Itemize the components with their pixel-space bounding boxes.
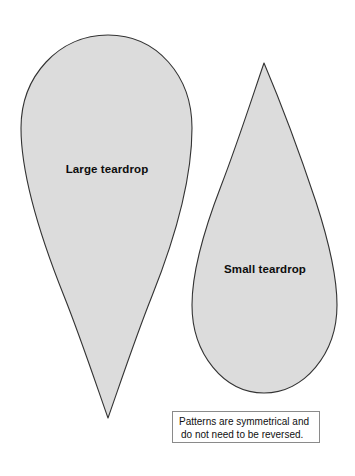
large-teardrop-shape — [21, 35, 192, 418]
small-teardrop-label: Small teardrop — [224, 263, 306, 275]
pattern-note-box: Patterns are symmetrical and do not need… — [172, 411, 320, 443]
pattern-shapes-canvas — [0, 0, 355, 476]
pattern-note-line-2: do not need to be reversed. — [179, 428, 314, 441]
pattern-note-line-1: Patterns are symmetrical and — [179, 415, 314, 428]
large-teardrop-label: Large teardrop — [66, 163, 149, 175]
small-teardrop-shape — [192, 63, 337, 393]
pattern-sheet: Large teardrop Small teardrop Patterns a… — [0, 0, 355, 476]
